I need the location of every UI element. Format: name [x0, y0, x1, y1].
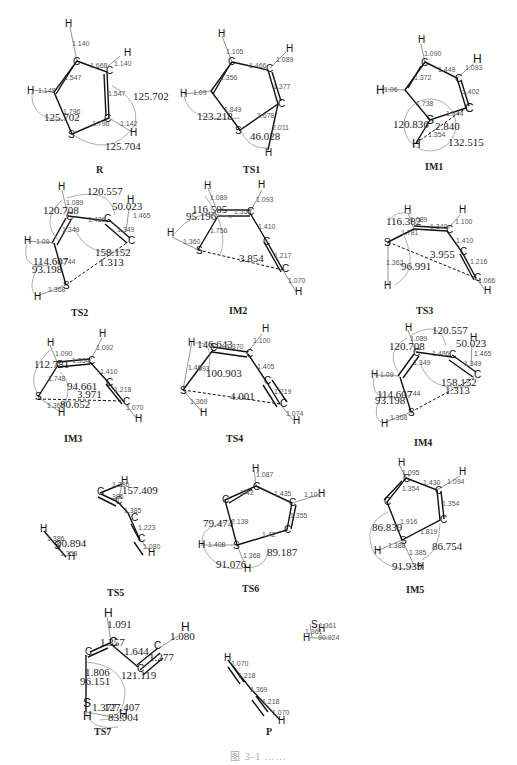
svg-text:S: S: [83, 696, 91, 710]
svg-text:1.819: 1.819: [420, 528, 438, 535]
svg-text:S: S: [235, 125, 242, 136]
svg-text:1.385: 1.385: [409, 549, 427, 556]
svg-text:C: C: [440, 514, 447, 525]
svg-text:132.515: 132.515: [448, 136, 484, 148]
svg-text:IM3: IM3: [64, 433, 82, 444]
svg-text:90.924: 90.924: [318, 634, 340, 641]
svg-text:1.796: 1.796: [92, 120, 110, 127]
svg-text:1.349: 1.349: [430, 223, 448, 230]
svg-text:86.754: 86.754: [432, 540, 463, 552]
svg-text:H: H: [65, 18, 72, 29]
svg-text:IM2: IM2: [229, 305, 247, 316]
svg-text:1.354: 1.354: [72, 357, 90, 364]
svg-text:TS3: TS3: [416, 305, 433, 316]
svg-text:1.368: 1.368: [390, 414, 408, 421]
structure-IM1: HCC HCS HH 1.0901.4491.093 1.3721.4021.0…: [376, 34, 484, 172]
svg-text:H: H: [198, 539, 205, 550]
svg-text:H: H: [404, 204, 411, 215]
structure-IM3: HCH CCC HSH 1.0901.3541.092 1.4101.2181.…: [34, 328, 144, 444]
svg-text:1.105: 1.105: [226, 48, 244, 55]
svg-text:1.095: 1.095: [402, 469, 420, 476]
svg-text:C: C: [85, 646, 92, 657]
svg-text:1.644: 1.644: [124, 645, 149, 657]
svg-text:C: C: [263, 236, 270, 247]
svg-text:1.093: 1.093: [465, 64, 483, 71]
svg-text:1.402: 1.402: [462, 88, 480, 95]
svg-text:1.358: 1.358: [60, 550, 78, 557]
svg-text:120.836: 120.836: [393, 118, 429, 130]
svg-text:1.089: 1.089: [276, 56, 294, 63]
svg-text:1.377: 1.377: [273, 83, 291, 90]
svg-text:1.465: 1.465: [474, 350, 492, 357]
svg-text:H: H: [286, 43, 293, 54]
svg-text:H: H: [83, 709, 92, 723]
svg-text:C: C: [465, 101, 474, 115]
svg-text:S: S: [35, 391, 42, 402]
structure-P: HH 1.0701.2181.369 1.2181.070 P: [224, 652, 290, 737]
svg-text:1.449: 1.449: [438, 66, 456, 73]
svg-text:1.080: 1.080: [170, 630, 195, 642]
svg-text:93.198: 93.198: [32, 263, 63, 275]
svg-text:120.708: 120.708: [389, 340, 425, 352]
svg-text:H: H: [218, 28, 225, 39]
svg-text:1.349: 1.349: [413, 359, 431, 366]
svg-text:80.652: 80.652: [60, 398, 90, 410]
svg-text:C: C: [97, 486, 104, 497]
svg-text:S: S: [408, 407, 415, 418]
svg-text:120.557: 120.557: [87, 185, 123, 197]
svg-text:C: C: [228, 56, 235, 67]
svg-text:1.090: 1.090: [424, 50, 442, 57]
svg-text:2.139: 2.139: [231, 518, 249, 525]
svg-text:1.354: 1.354: [442, 500, 460, 507]
svg-text:157.409: 157.409: [122, 484, 158, 496]
svg-text:C: C: [449, 349, 456, 360]
svg-text:C: C: [106, 377, 113, 388]
svg-text:S: S: [233, 540, 240, 551]
svg-text:H: H: [278, 715, 285, 726]
svg-text:125.702: 125.702: [44, 111, 80, 123]
svg-text:1.100: 1.100: [455, 218, 473, 225]
svg-text:1.09: 1.09: [380, 371, 394, 378]
svg-text:TS1: TS1: [243, 164, 260, 175]
svg-text:H: H: [124, 47, 131, 58]
svg-text:1.369: 1.369: [250, 686, 268, 693]
svg-text:91.076: 91.076: [216, 558, 247, 570]
svg-text:C: C: [460, 246, 467, 257]
svg-text:IM1: IM1: [425, 161, 443, 172]
structure-TS3: HCH CCH SH 1.0891.3491.100 1.7811.4101.2…: [384, 204, 496, 316]
svg-text:H: H: [47, 337, 54, 348]
svg-text:1.354: 1.354: [428, 131, 446, 138]
svg-text:C: C: [73, 56, 80, 67]
svg-text:C: C: [128, 235, 135, 246]
svg-text:1.06: 1.06: [384, 86, 398, 93]
svg-text:1.466: 1.466: [249, 62, 267, 69]
svg-text:H: H: [99, 328, 106, 339]
svg-text:1.738: 1.738: [416, 100, 434, 107]
svg-text:1.217: 1.217: [274, 252, 292, 259]
svg-text:125.702: 125.702: [133, 90, 169, 102]
svg-text:1.357: 1.357: [100, 636, 125, 648]
svg-text:1.218: 1.218: [114, 386, 132, 393]
svg-text:TS4: TS4: [226, 433, 243, 444]
svg-text:112.781: 112.781: [34, 358, 69, 370]
svg-text:R: R: [96, 164, 104, 175]
svg-text:S: S: [68, 129, 75, 140]
svg-text:1.355: 1.355: [290, 512, 308, 519]
svg-text:1.087: 1.087: [256, 471, 274, 478]
svg-text:1.223: 1.223: [138, 524, 156, 531]
svg-text:1.349: 1.349: [62, 226, 80, 233]
svg-text:1.089: 1.089: [210, 194, 228, 201]
svg-text:120.557: 120.557: [432, 324, 468, 336]
svg-text:IM5: IM5: [406, 584, 424, 595]
svg-text:1.344: 1.344: [446, 110, 464, 117]
reaction-pathway-figure: HCC HCH SH 1.1401.6681.140 1.5471.5471.1…: [0, 0, 517, 765]
svg-text:1.140: 1.140: [114, 60, 132, 67]
svg-text:H: H: [200, 407, 207, 418]
svg-text:TS6: TS6: [242, 583, 259, 594]
svg-text:1.080: 1.080: [143, 543, 161, 550]
svg-text:1.430: 1.430: [423, 479, 441, 486]
svg-text:1.410: 1.410: [258, 223, 276, 230]
figure-caption: 图 3-1 ……: [0, 748, 517, 763]
svg-text:S: S: [384, 237, 391, 248]
svg-text:H: H: [459, 466, 466, 477]
